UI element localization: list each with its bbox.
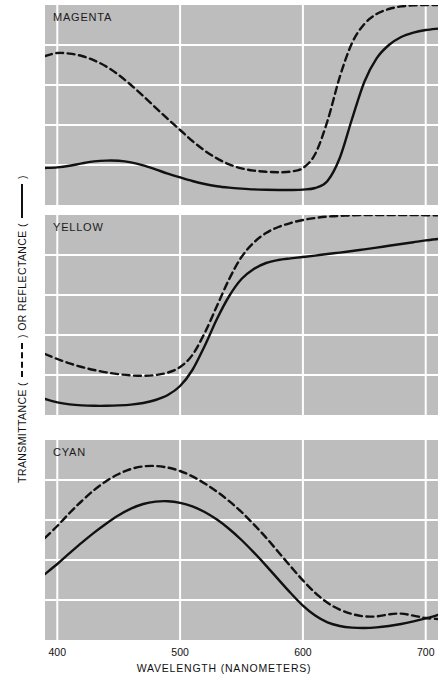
data-curves xyxy=(45,5,438,190)
data-curves xyxy=(45,466,438,628)
gridlines xyxy=(45,5,438,205)
x-axis-tick-label: 600 xyxy=(294,646,312,658)
x-axis-tick-label: 400 xyxy=(49,646,67,658)
reflectance-legend-solid-icon xyxy=(21,184,23,218)
plot-area xyxy=(45,5,438,205)
x-axis-tick-label: 500 xyxy=(171,646,189,658)
y-axis-label-suffix: ) xyxy=(16,175,28,179)
y-axis-label-prefix: TRANSMITTANCE ( xyxy=(16,382,28,483)
panel-title: CYAN xyxy=(53,446,86,458)
plot-area xyxy=(45,215,438,415)
x-axis-title: WAVELENGTH (NANOMETERS) xyxy=(0,662,448,674)
panel-title: MAGENTA xyxy=(53,11,112,23)
chart-panel-magenta: MAGENTA xyxy=(45,5,438,205)
chart-panel-cyan: CYAN xyxy=(45,440,438,640)
y-axis-label-middle: ) OR REFLECTANCE ( xyxy=(16,223,28,338)
gridlines xyxy=(45,215,438,415)
chart-panel-yellow: YELLOW xyxy=(45,215,438,415)
x-axis-tick-label: 700 xyxy=(417,646,435,658)
panel-title: YELLOW xyxy=(53,221,104,233)
plot-area xyxy=(45,440,438,640)
y-axis-label: TRANSMITTANCE ( ) OR REFLECTANCE ( ) xyxy=(2,0,24,673)
data-curves xyxy=(45,215,438,406)
transmittance-legend-dash-icon xyxy=(21,343,23,377)
